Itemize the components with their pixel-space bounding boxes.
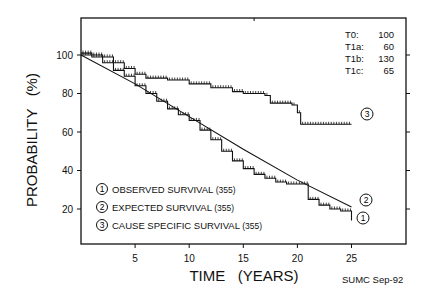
curve-1 <box>81 55 352 221</box>
y-tick-label: 60 <box>62 127 74 138</box>
svg-text:1: 1 <box>100 184 105 194</box>
stat-value: 60 <box>383 41 394 52</box>
svg-text:3: 3 <box>100 220 105 230</box>
x-axis-title: TIME (YEARS) <box>189 267 298 284</box>
stat-label: T0: <box>345 29 359 40</box>
x-axis: 510152025 <box>132 244 357 264</box>
stat-value: 65 <box>383 65 394 76</box>
legend: 1OBSERVED SURVIVAL (355)2EXPECTED SURVIV… <box>97 184 263 231</box>
svg-text:2: 2 <box>100 202 105 212</box>
curve-3 <box>81 53 352 124</box>
y-tick-label: 80 <box>62 88 74 99</box>
survival-chart: 20406080100 510152025 123 1OBSERVED SURV… <box>0 0 431 300</box>
x-tick-label: 5 <box>132 253 138 264</box>
x-tick-label: 20 <box>292 253 304 264</box>
stat-label: T1a: <box>345 41 364 52</box>
legend-item: CAUSE SPECIFIC SURVIVAL (355) <box>112 220 262 231</box>
y-tick-label: 40 <box>62 165 74 176</box>
plot-curves <box>81 51 352 221</box>
x-tick-label: 10 <box>184 253 196 264</box>
stat-value: 100 <box>378 29 394 40</box>
stat-label: T1c: <box>345 65 363 76</box>
svg-text:2: 2 <box>364 195 369 205</box>
legend-item: OBSERVED SURVIVAL (355) <box>112 184 236 195</box>
stats-box: T0:100T1a:60T1b:130T1c:65 <box>345 29 394 76</box>
svg-text:3: 3 <box>365 109 370 119</box>
x-tick-label: 15 <box>238 253 250 264</box>
stat-value: 130 <box>378 53 394 64</box>
y-tick-label: 20 <box>62 204 74 215</box>
curve-markers: 123 <box>357 108 373 224</box>
stat-label: T1b: <box>345 53 364 64</box>
svg-text:1: 1 <box>361 213 366 223</box>
x-tick-label: 25 <box>346 253 358 264</box>
y-tick-label: 100 <box>56 50 73 61</box>
credit-text: SUMC Sep-92 <box>342 274 403 285</box>
y-axis-title: PROBABILITY (%) <box>23 73 40 207</box>
legend-item: EXPECTED SURVIVAL (355) <box>112 202 234 213</box>
